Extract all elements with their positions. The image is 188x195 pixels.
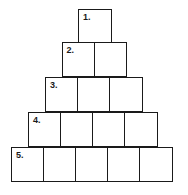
pyramid-cell <box>124 112 158 147</box>
pyramid-cell: 2. <box>62 42 96 77</box>
pyramid-row-1: 1. <box>78 9 112 44</box>
pyramid-row-2: 2. <box>62 42 128 77</box>
pyramid-cell <box>60 112 94 147</box>
row-number-label: 3. <box>50 80 58 90</box>
pyramid-cell: 3. <box>45 77 79 112</box>
pyramid-cell <box>94 42 128 77</box>
pyramid-cell <box>43 147 77 182</box>
pyramid-row-4: 4. <box>28 112 158 147</box>
pyramid-cell: 5. <box>11 147 45 182</box>
pyramid-cell <box>77 77 111 112</box>
pyramid-row-3: 3. <box>45 77 143 112</box>
pyramid-cell <box>107 147 141 182</box>
pyramid-cell <box>75 147 109 182</box>
pyramid-cell <box>109 77 143 112</box>
pyramid-cell <box>139 147 173 182</box>
row-number-label: 5. <box>16 150 24 160</box>
pyramid-cell: 1. <box>78 9 112 44</box>
pyramid-cell: 4. <box>28 112 62 147</box>
row-number-label: 4. <box>33 115 41 125</box>
row-number-label: 1. <box>83 12 91 22</box>
row-number-label: 2. <box>67 45 75 55</box>
pyramid-cell <box>92 112 126 147</box>
pyramid-row-5: 5. <box>11 147 173 182</box>
